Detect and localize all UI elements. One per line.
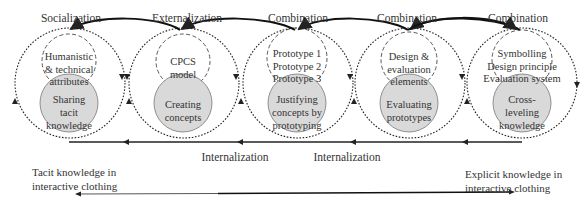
core-line: tacit (34, 106, 104, 119)
phase-label-internalization-1: Internalization (200, 151, 270, 163)
inner-line: & technical (34, 64, 104, 77)
axis-label-line: interactive clothing (465, 181, 562, 195)
core-line: leveling (487, 106, 557, 119)
core-line: Creating (148, 98, 218, 111)
stage-1-core-text: Sharing tacit knowledge (34, 93, 104, 132)
stage-5-core-text: Cross- leveling knowledge (487, 93, 557, 132)
core-line: Evaluating (374, 98, 444, 111)
stage-3-inner-text: Prototype 1 Prototype 2 Prototype 3 (262, 48, 332, 86)
axis-label-line: interactive clothing (32, 179, 117, 193)
inner-line: Design principle (477, 61, 567, 74)
inner-line: evaluation (374, 64, 444, 77)
inner-line: Prototype 3 (262, 73, 332, 86)
phase-label-internalization-2: Internalization (312, 151, 382, 163)
inner-line: Symbolling (477, 48, 567, 61)
core-line: prototypes (374, 111, 444, 124)
phase-label-socialization: Socialization (40, 12, 102, 24)
stage-2-inner-text: CPCS model (148, 56, 218, 81)
inner-line: attributes (34, 76, 104, 89)
inner-line: Prototype 1 (262, 48, 332, 61)
stage-3-core-text: Justifying concepts by prototyping (257, 93, 337, 132)
phase-label-combination-2: Combination (372, 12, 442, 24)
core-line: knowledge (487, 119, 557, 132)
inner-line: Evaluation system (477, 73, 567, 86)
inner-line: model (148, 69, 218, 82)
inner-line: CPCS (148, 56, 218, 69)
stage-5-inner-text: Symbolling Design principle Evaluation s… (477, 48, 567, 86)
inner-line: Humanistic (34, 51, 104, 64)
core-line: concepts by (257, 106, 337, 119)
stage-4-core-text: Evaluating prototypes (374, 98, 444, 124)
inner-line: elements (374, 76, 444, 89)
phase-label-externalization: Externalization (142, 12, 232, 24)
axis-label-line: Tacit knowledge in (32, 165, 117, 179)
stage-2-core-text: Creating concepts (148, 98, 218, 124)
knowledge-axis (75, 190, 515, 197)
inner-line: Design & (374, 51, 444, 64)
stage-4-inner-text: Design & evaluation elements (374, 51, 444, 89)
axis-label-line: Explicit knowledge in (465, 167, 562, 181)
phase-label-combination-1: Combination (263, 12, 333, 24)
tacit-knowledge-label: Tacit knowledge in interactive clothing (32, 165, 117, 193)
core-line: Cross- (487, 93, 557, 106)
core-line: prototyping (257, 119, 337, 132)
core-line: Sharing (34, 93, 104, 106)
core-line: Justifying (257, 93, 337, 106)
explicit-knowledge-label: Explicit knowledge in interactive clothi… (465, 167, 562, 195)
inner-line: Prototype 2 (262, 61, 332, 74)
core-line: knowledge (34, 119, 104, 132)
stage-1-inner-text: Humanistic & technical attributes (34, 51, 104, 89)
phase-label-combination-3: Combination (483, 12, 553, 24)
core-line: concepts (148, 111, 218, 124)
